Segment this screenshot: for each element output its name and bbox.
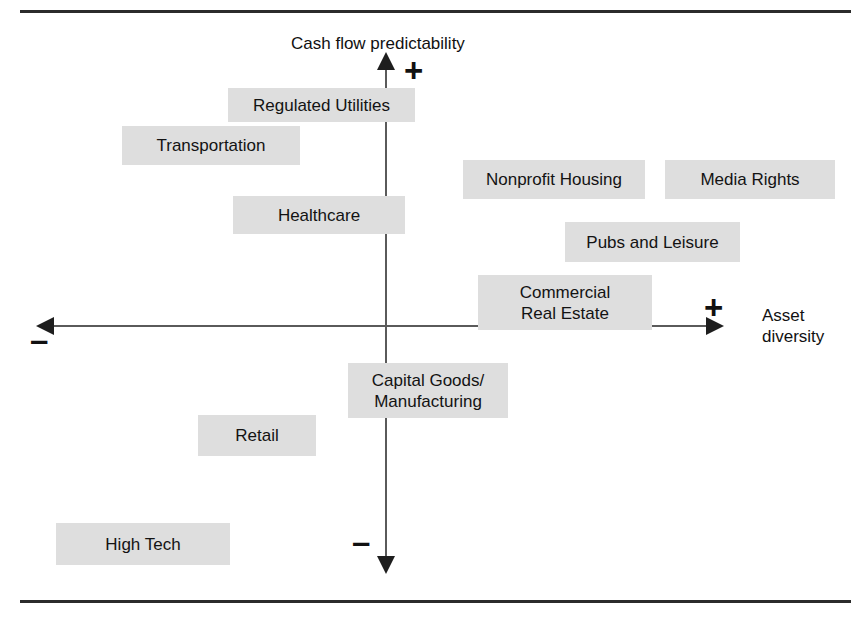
category-box-media-rights: Media Rights bbox=[665, 160, 835, 199]
bottom-rule bbox=[20, 600, 851, 603]
category-box-pubs-and-leisure: Pubs and Leisure bbox=[565, 222, 740, 262]
plus-sign-right: + bbox=[704, 291, 723, 324]
top-rule bbox=[20, 10, 851, 13]
category-box-high-tech: High Tech bbox=[56, 523, 230, 565]
vertical-axis-line bbox=[385, 66, 387, 562]
category-box-regulated-utilities: Regulated Utilities bbox=[228, 88, 415, 122]
plus-sign-top: + bbox=[404, 54, 423, 87]
category-box-commercial-real-estate: Commercial Real Estate bbox=[478, 275, 652, 330]
category-box-healthcare: Healthcare bbox=[233, 196, 405, 234]
arrow-up-icon bbox=[377, 52, 395, 70]
horizontal-axis-title: Asset diversity bbox=[762, 305, 824, 347]
arrow-down-icon bbox=[377, 556, 395, 574]
minus-sign-left: – bbox=[30, 323, 48, 356]
category-box-retail: Retail bbox=[198, 415, 316, 456]
vertical-axis-title: Cash flow predictability bbox=[291, 33, 465, 54]
minus-sign-bottom: – bbox=[352, 525, 370, 558]
category-box-capital-goods-manufacturing: Capital Goods/ Manufacturing bbox=[348, 363, 508, 418]
category-box-nonprofit-housing: Nonprofit Housing bbox=[463, 160, 645, 199]
category-box-transportation: Transportation bbox=[122, 126, 300, 165]
quadrant-chart: Cash flow predictability Asset diversity… bbox=[0, 0, 866, 634]
